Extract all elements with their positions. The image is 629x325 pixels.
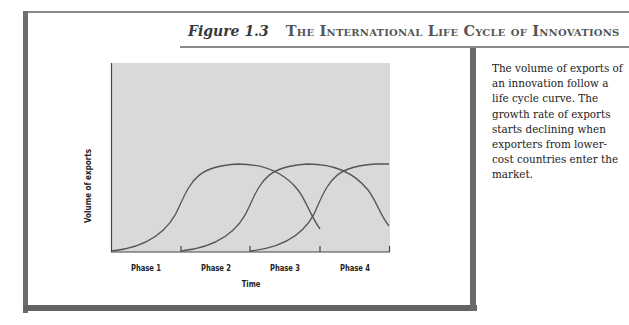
x-tick-label-phase-1: Phase 1: [118, 263, 174, 273]
plot-area: [111, 63, 390, 252]
figure-heading: Figure 1.3 The International Life Cycle …: [188, 21, 619, 45]
frame-right-border: [470, 47, 476, 311]
y-axis-label: Volume of exports: [84, 149, 93, 223]
x-tick-label-phase-3: Phase 3: [257, 263, 313, 273]
frame-bottom-border: [23, 305, 477, 311]
life-cycle-chart: [80, 55, 410, 295]
figure-title: The International Life Cycle of Innovati…: [286, 22, 620, 39]
top-rule: [24, 11, 629, 13]
figure-caption: The volume of exports of an innovation f…: [492, 61, 626, 183]
x-tick-label-phase-4: Phase 4: [327, 263, 383, 273]
title-underline: [180, 46, 629, 48]
x-tick-label-phase-2: Phase 2: [188, 263, 244, 273]
frame-left-border: [23, 11, 28, 313]
x-axis-label: Time: [239, 279, 263, 289]
figure-number: Figure 1.3: [188, 23, 269, 39]
